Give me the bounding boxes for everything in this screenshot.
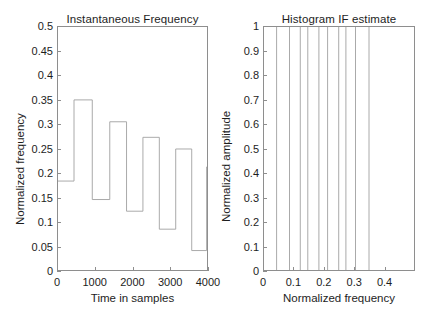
- plot-title-right: Histogram IF estimate: [263, 13, 415, 25]
- x-tick-mark: [293, 267, 294, 271]
- y-tick-mark: [263, 124, 267, 125]
- plot-title-left: Instantaneous Frequency: [57, 13, 208, 25]
- y-tick-mark: [57, 198, 61, 199]
- y-tick-label: 0: [217, 266, 259, 277]
- y-tick-label: 0.4: [11, 70, 53, 81]
- y-tick-mark: [57, 149, 61, 150]
- subplot-histogram-if-estimate: Histogram IF estimate 00.10.20.30.40.50.…: [212, 0, 424, 330]
- y-tick-label: 0.45: [11, 46, 53, 57]
- y-tick-mark: [57, 271, 61, 272]
- x-tick-mark: [57, 267, 58, 271]
- y-tick-mark: [57, 75, 61, 76]
- y-tick-label: 0.8: [217, 70, 259, 81]
- y-tick-label: 0.7: [217, 95, 259, 106]
- x-axis-label-right: Normalized frequency: [263, 292, 415, 304]
- y-tick-mark: [57, 100, 61, 101]
- x-tick-mark: [324, 267, 325, 271]
- x-tick-mark: [170, 267, 171, 271]
- axes-left: [57, 26, 208, 271]
- y-tick-mark: [57, 173, 61, 174]
- y-tick-mark: [57, 247, 61, 248]
- y-tick-mark: [57, 26, 61, 27]
- y-tick-mark: [263, 198, 267, 199]
- y-axis-label-right: Normalized amplitude: [220, 111, 232, 222]
- y-tick-mark: [263, 247, 267, 248]
- y-tick-mark: [57, 51, 61, 52]
- y-tick-label: 0.05: [11, 242, 53, 253]
- step-line-path: [58, 100, 207, 251]
- y-tick-mark: [263, 26, 267, 27]
- y-tick-mark: [57, 222, 61, 223]
- x-tick-mark: [95, 267, 96, 271]
- y-tick-mark: [263, 100, 267, 101]
- subplot-instantaneous-frequency: Instantaneous Frequency 00.050.10.150.20…: [0, 0, 212, 330]
- axes-right: [263, 26, 415, 271]
- y-tick-mark: [57, 124, 61, 125]
- y-tick-label: 0.9: [217, 46, 259, 57]
- y-tick-mark: [263, 173, 267, 174]
- y-tick-label: 0.5: [11, 21, 53, 32]
- y-axis-label-left: Normalized frequency: [14, 113, 26, 225]
- x-tick-mark: [133, 267, 134, 271]
- data-series-left: [58, 27, 207, 270]
- x-axis-label-left: Time in samples: [57, 292, 208, 304]
- y-tick-label: 0.35: [11, 95, 53, 106]
- data-series-right: [264, 27, 414, 270]
- x-tick-mark: [208, 267, 209, 271]
- x-tick-mark: [385, 267, 386, 271]
- x-tick-mark: [354, 267, 355, 271]
- y-tick-label: 0: [11, 266, 53, 277]
- x-tick-label: 0.4: [360, 277, 410, 288]
- y-tick-label: 0.1: [217, 242, 259, 253]
- y-tick-mark: [263, 75, 267, 76]
- y-tick-label: 1: [217, 21, 259, 32]
- y-tick-mark: [263, 149, 267, 150]
- y-tick-mark: [263, 51, 267, 52]
- figure-canvas: Instantaneous Frequency 00.050.10.150.20…: [0, 0, 424, 330]
- y-tick-mark: [263, 222, 267, 223]
- x-tick-mark: [263, 267, 264, 271]
- y-tick-mark: [263, 271, 267, 272]
